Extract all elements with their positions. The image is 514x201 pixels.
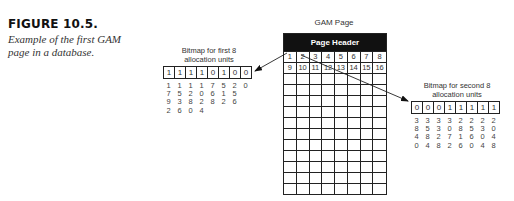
right-bitmap-values: 38403584332830722816256023042048 [411,117,499,150]
gam-cell [322,162,335,173]
gam-cell: 13 [335,63,348,74]
gam-cell [322,74,335,85]
gam-cell [322,85,335,96]
gam-cell [322,107,335,118]
allocation-unit-value: 1280 [185,82,196,115]
gam-cell [348,184,361,194]
gam-cell [348,74,361,85]
gam-cell [348,151,361,162]
gam-cell: 4 [322,52,335,63]
allocation-unit-value: 3840 [411,117,422,150]
gam-cell: 3 [310,52,323,63]
gam-cell: 2 [297,52,310,63]
gam-cell [373,151,386,162]
gam-cell [348,173,361,184]
gam-cell: 15 [361,63,374,74]
gam-cell [284,118,297,129]
gam-cell: 12 [322,63,335,74]
page-header: Page Header [284,34,386,52]
bit-cell: 0 [412,102,423,113]
gam-cell [297,74,310,85]
bit-cell: 1 [456,102,467,113]
allocation-unit-value: 1024 [196,82,207,115]
gam-cell [361,129,374,140]
allocation-unit-value: 2816 [455,117,466,150]
gam-cell [284,74,297,85]
digit: 6 [232,98,236,106]
bit-cell: 1 [445,102,456,113]
left-bitmap: 11110100 [163,66,252,79]
digit: 2 [221,98,225,106]
allocation-unit-value: 3328 [433,117,444,150]
gam-cell [348,129,361,140]
gam-cell [361,107,374,118]
bit-cell: 0 [423,102,434,113]
gam-cell [284,184,297,194]
gam-cell: 1 [284,52,297,63]
left-bitmap-label-line2: allocation units [166,55,252,64]
allocation-unit-value: 3584 [422,117,433,150]
gam-cell [335,107,348,118]
allocation-unit-value: 0 [240,82,251,115]
gam-cell [373,129,386,140]
gam-cell [297,129,310,140]
digit: 0 [188,107,192,115]
allocation-unit-value: 256 [229,82,240,115]
gam-cell [361,96,374,107]
gam-cell [284,151,297,162]
gam-cell [348,107,361,118]
gam-cell [361,118,374,129]
gam-cell [310,74,323,85]
gam-cell: 6 [348,52,361,63]
bit-cell: 1 [467,102,478,113]
allocation-unit-value: 3072 [444,117,455,150]
gam-cell [361,184,374,194]
gam-cell [361,162,374,173]
gam-cell [284,96,297,107]
digit: 2 [166,107,170,115]
gam-cell [348,85,361,96]
gam-cell [297,96,310,107]
allocation-unit-value: 2560 [466,117,477,150]
bit-cell: 1 [478,102,489,113]
right-bitmap: 00011111 [411,101,500,114]
gam-cell [284,129,297,140]
gam-cell [373,162,386,173]
bit-cell: 0 [230,67,241,78]
allocation-unit-value: 1536 [174,82,185,115]
allocation-unit-value: 1792 [163,82,174,115]
left-bitmap-values: 17921536128010247685122560 [163,82,251,115]
gam-cell [335,74,348,85]
gam-cell [373,184,386,194]
gam-cell [373,140,386,151]
gam-page-label: GAM Page [303,18,365,27]
gam-cell [284,162,297,173]
gam-cell [284,85,297,96]
gam-cell [335,96,348,107]
gam-cell [373,85,386,96]
gam-cell [310,118,323,129]
gam-cell: 16 [373,63,386,74]
gam-cell [322,151,335,162]
figure-title: FIGURE 10.5. [8,16,98,31]
gam-cell [310,85,323,96]
gam-cell [297,107,310,118]
allocation-unit-value: 768 [207,82,218,115]
gam-page: Page Header 12345678910111213141516 [283,33,387,195]
allocation-unit-value: 2048 [488,117,499,150]
bit-cell: 1 [186,67,197,78]
gam-cell [361,173,374,184]
gam-cell [348,118,361,129]
left-bitmap-label-line1: Bitmap for first 8 [166,46,252,55]
gam-cell [310,129,323,140]
bit-cell: 0 [434,102,445,113]
digit: 0 [414,142,418,150]
gam-cell: 8 [373,52,386,63]
gam-cell: 14 [348,63,361,74]
right-bitmap-label-line1: Bitmap for second 8 [413,81,501,90]
digit: 6 [177,107,181,115]
figure-caption: Example of the first GAM page in a datab… [8,33,138,59]
gam-cell [322,184,335,194]
gam-cell [297,140,310,151]
gam-cell [348,96,361,107]
